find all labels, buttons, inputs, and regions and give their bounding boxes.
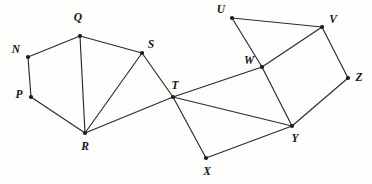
- vertex-label-w: W: [244, 54, 255, 66]
- vertex-point-s: [140, 51, 144, 55]
- geometry-figure-canvas: NPQRSTUVWXYZ: [0, 0, 372, 184]
- vertex-label-v: V: [329, 13, 338, 25]
- vertex-point-v: [320, 25, 324, 29]
- edge-s-t: [142, 53, 173, 97]
- edge-t-x: [173, 97, 206, 158]
- vertex-label-x: X: [202, 165, 211, 177]
- edge-q-s: [80, 36, 142, 53]
- edge-layer: [28, 18, 348, 158]
- edge-w-y: [262, 67, 292, 126]
- vertex-point-w: [260, 65, 264, 69]
- edge-t-y: [173, 97, 292, 126]
- vertex-label-y: Y: [291, 132, 299, 144]
- figure-svg: NPQRSTUVWXYZ: [0, 0, 372, 184]
- edge-v-z: [322, 27, 348, 78]
- vertex-label-q: Q: [74, 11, 82, 23]
- label-layer: NPQRSTUVWXYZ: [11, 3, 363, 177]
- vertex-label-u: U: [217, 3, 226, 15]
- edge-u-v: [232, 18, 322, 27]
- edge-n-p: [28, 57, 31, 97]
- edge-n-q: [28, 36, 80, 57]
- edge-y-z: [292, 78, 348, 126]
- edge-v-w: [262, 27, 322, 67]
- vertex-label-n: N: [11, 43, 21, 55]
- vertex-point-x: [204, 156, 208, 160]
- vertex-point-y: [290, 124, 294, 128]
- vertex-label-t: T: [171, 79, 179, 91]
- vertex-label-p: P: [15, 88, 23, 100]
- vertex-point-p: [29, 95, 33, 99]
- vertex-point-u: [230, 16, 234, 20]
- vertex-point-z: [346, 76, 350, 80]
- vertex-label-s: S: [148, 38, 154, 50]
- vertex-point-r: [83, 131, 87, 135]
- edge-p-r: [31, 97, 85, 133]
- edge-x-y: [206, 126, 292, 158]
- vertex-label-r: R: [80, 140, 89, 152]
- vertex-point-q: [78, 34, 82, 38]
- vertex-layer: [26, 16, 350, 160]
- vertex-label-z: Z: [354, 71, 362, 83]
- edge-q-r: [80, 36, 85, 133]
- vertex-point-t: [171, 95, 175, 99]
- edge-t-w: [173, 67, 262, 97]
- vertex-point-n: [26, 55, 30, 59]
